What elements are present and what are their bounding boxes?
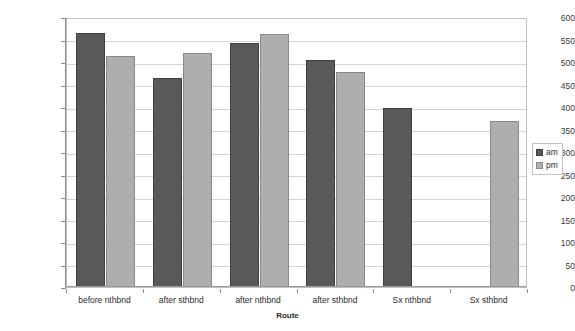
bar-pm-1 [183,53,212,287]
bar-am-2 [230,43,259,287]
plot-area [66,18,527,288]
x-tick-label: Sx nthbnd [373,295,450,305]
legend-label: am [546,148,558,157]
legend-swatch-icon [536,149,543,156]
x-tick-mark [143,289,144,293]
bar-am-3 [306,60,335,287]
legend-swatch-icon [536,162,543,169]
x-tick-mark [66,289,67,293]
gridline [67,86,526,87]
gridline [67,131,526,132]
x-tick-label: after sthbnd [297,295,374,305]
bar-pm-0 [106,56,135,287]
gridline [67,221,526,222]
x-tick-label: before nthbnd [66,295,143,305]
x-tick-mark [450,289,451,293]
gridline [67,64,526,65]
y-tick-mark [61,131,65,132]
bar-pm-5 [490,121,519,287]
x-axis-baseline [67,286,526,287]
y-tick-mark [61,18,65,19]
y-tick-mark [61,63,65,64]
y-tick-mark [61,153,65,154]
legend: ampm [532,143,563,175]
bar-pm-2 [260,34,289,287]
y-tick-mark [61,266,65,267]
y-tick-mark [61,288,65,289]
bar-pm-3 [336,72,365,287]
x-tick-label: Sx sthbnd [450,295,527,305]
x-tick-mark [373,289,374,293]
bar-chart: Travel Time (sec) 0501001502002503003504… [0,0,575,331]
y-tick-mark [61,176,65,177]
legend-item-am[interactable]: am [536,147,558,158]
gridline [67,109,526,110]
x-tick-label: after sthbnd [143,295,220,305]
y-tick-mark [61,221,65,222]
legend-item-pm[interactable]: pm [536,160,558,171]
x-tick-mark [297,289,298,293]
x-axis-title: Route [0,311,575,320]
bar-am-4 [383,108,412,287]
gridline [67,244,526,245]
gridline [67,199,526,200]
legend-label: pm [546,161,558,170]
y-tick-mark [61,108,65,109]
y-tick-mark [61,86,65,87]
gridline [67,41,526,42]
bar-am-0 [76,33,105,287]
x-tick-mark [527,289,528,293]
gridline [67,266,526,267]
x-tick-label: after nthbnd [220,295,297,305]
gridline [67,154,526,155]
y-tick-mark [61,41,65,42]
gridline [67,176,526,177]
x-tick-mark [220,289,221,293]
bar-am-1 [153,78,182,287]
y-tick-mark [61,198,65,199]
y-tick-mark [61,243,65,244]
